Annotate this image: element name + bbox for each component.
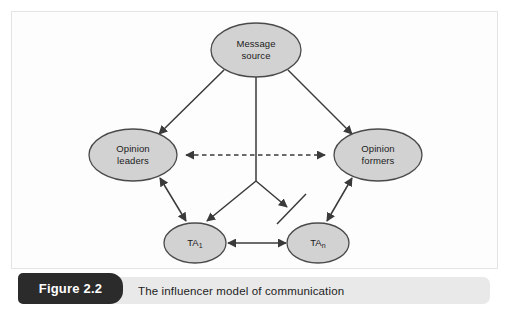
- blocked-path-slash-icon: [277, 194, 306, 224]
- node-ta-n[interactable]: [287, 223, 349, 263]
- edge-source-to-formers: [288, 70, 352, 134]
- node-ta-1[interactable]: [164, 223, 226, 263]
- node-opinion-leaders[interactable]: [89, 129, 177, 181]
- figure-container: Message source Opinion leaders Opinion f…: [0, 0, 511, 321]
- edge-source-to-leaders: [159, 70, 224, 134]
- node-message-source[interactable]: [211, 23, 301, 77]
- edge-junction-to-ta1: [207, 181, 256, 221]
- figure-caption-text: The influencer model of communication: [138, 277, 344, 304]
- figure-number-tag: Figure 2.2: [18, 273, 123, 304]
- edge-formers-tan: [327, 178, 352, 221]
- edge-layer: [159, 70, 352, 243]
- node-opinion-formers[interactable]: [334, 129, 422, 181]
- edge-junction-to-tan: [256, 181, 287, 207]
- edge-leaders-ta1: [160, 178, 186, 221]
